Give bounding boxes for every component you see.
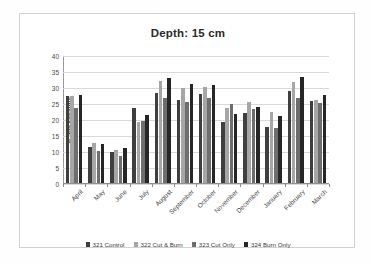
- bar: [314, 100, 318, 183]
- bar: [300, 77, 304, 183]
- bar-group: [218, 55, 240, 183]
- bar: [292, 82, 296, 183]
- x-axis-tick-label: December: [235, 188, 261, 214]
- bar: [163, 98, 167, 183]
- bar: [88, 147, 92, 183]
- bar: [247, 102, 251, 183]
- legend-swatch-icon: [244, 242, 249, 247]
- bar: [274, 128, 278, 183]
- y-axis-tick-label: 10: [52, 149, 59, 156]
- y-axis-tick-label: 20: [52, 117, 59, 124]
- bar: [137, 122, 141, 183]
- chart-legend: 321 Control322 Cut & Burn323 Cut Only324…: [20, 241, 356, 248]
- bar: [310, 101, 314, 183]
- bar: [256, 107, 260, 183]
- bar: [203, 87, 207, 183]
- bar: [243, 113, 247, 183]
- bar: [270, 112, 274, 183]
- bar-group: [85, 55, 107, 183]
- bar: [323, 95, 327, 183]
- y-axis-tick-label: 40: [52, 53, 59, 60]
- bar: [74, 108, 78, 183]
- x-axis-tick-label: March: [310, 188, 328, 206]
- bar: [123, 148, 127, 183]
- bar: [114, 150, 118, 183]
- x-axis-tick-label: May: [92, 188, 106, 202]
- y-axis-tick-label: 25: [52, 101, 59, 108]
- bar-group: [152, 55, 174, 183]
- bar: [234, 114, 238, 183]
- plot-area: 0510152025303540: [63, 56, 329, 184]
- x-axis-tick-mark: [329, 184, 330, 187]
- chart-frame: Depth: 15 cm % Soil Moisture 05101520253…: [19, 13, 355, 248]
- legend-swatch-icon: [134, 242, 139, 247]
- legend-label: 323 Cut Only: [199, 241, 235, 248]
- legend-swatch-icon: [192, 242, 197, 247]
- bar: [288, 91, 292, 183]
- bar: [207, 98, 211, 183]
- bar: [296, 98, 300, 183]
- bar: [221, 122, 225, 183]
- y-axis-tick-label: 30: [52, 85, 59, 92]
- bar: [230, 104, 234, 183]
- x-axis-tick-label: June: [113, 188, 128, 203]
- bar: [190, 84, 194, 183]
- x-axis-tick-label: April: [70, 188, 84, 202]
- x-axis-tick-label: January: [262, 188, 283, 209]
- bar: [141, 121, 145, 183]
- bar: [278, 116, 282, 183]
- bar: [252, 109, 256, 183]
- bar: [101, 144, 105, 183]
- x-axis-tick-label: August: [153, 188, 172, 207]
- bar: [92, 143, 96, 183]
- bar-group: [130, 55, 152, 183]
- bar: [177, 100, 181, 183]
- y-axis-tick-label: 35: [52, 69, 59, 76]
- y-axis-tick-label: 5: [55, 165, 59, 172]
- bar: [145, 115, 149, 183]
- legend-item[interactable]: 322 Cut & Burn: [134, 241, 183, 248]
- x-axis-tick-label: October: [196, 188, 217, 209]
- bar: [181, 88, 185, 183]
- bar: [97, 151, 101, 183]
- bar: [185, 102, 189, 183]
- x-axis-tick-labels: AprilMayJuneJulyAugustSeptemberOctoberNo…: [63, 186, 329, 230]
- bar-group: [196, 55, 218, 183]
- bar-group: [174, 55, 196, 183]
- bar: [159, 81, 163, 183]
- legend-item[interactable]: 321 Control: [86, 241, 125, 248]
- legend-label: 324 Burn Only: [251, 241, 291, 248]
- bar: [119, 156, 123, 183]
- bar: [110, 152, 114, 183]
- legend-swatch-icon: [86, 242, 91, 247]
- bar-group: [63, 55, 85, 183]
- bar: [212, 85, 216, 183]
- chart-figure: Depth: 15 cm % Soil Moisture 05101520253…: [0, 0, 371, 264]
- legend-label: 322 Cut & Burn: [141, 241, 183, 248]
- bar-group: [263, 55, 285, 183]
- x-axis-tick-label: February: [282, 188, 305, 211]
- bar: [167, 78, 171, 183]
- bar: [265, 127, 269, 183]
- bar: [132, 108, 136, 183]
- legend-item[interactable]: 323 Cut Only: [192, 241, 235, 248]
- bar-group: [285, 55, 307, 183]
- bar: [70, 96, 74, 183]
- bar: [199, 94, 203, 183]
- bar: [66, 96, 70, 183]
- bar: [155, 93, 159, 183]
- legend-label: 321 Control: [93, 241, 125, 248]
- legend-item[interactable]: 324 Burn Only: [244, 241, 291, 248]
- x-axis-tick-label: July: [137, 188, 150, 201]
- bar-group: [107, 55, 129, 183]
- bar-group: [240, 55, 262, 183]
- chart-title: Depth: 15 cm: [20, 27, 356, 39]
- bar: [318, 103, 322, 183]
- bar-group: [307, 55, 329, 183]
- y-axis-tick-label: 15: [52, 133, 59, 140]
- bar: [79, 95, 83, 183]
- bar: [225, 108, 229, 183]
- y-axis-tick-label: 0: [55, 181, 59, 188]
